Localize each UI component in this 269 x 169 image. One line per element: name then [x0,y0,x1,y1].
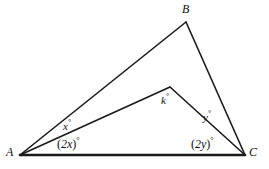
figure-canvas [0,0,269,169]
degree-symbol: ° [210,135,213,145]
angle-label-two-x: (2x)° [57,136,80,150]
vertex-label-c: C [249,146,257,158]
angle-two-x-value: 2x [61,137,72,151]
angle-label-x: x° [63,119,71,132]
degree-symbol: ° [166,92,169,101]
angle-label-y: y° [203,110,211,123]
vertex-label-b: B [182,3,189,15]
vertex-label-a: A [6,146,13,158]
angle-label-k: k° [161,93,169,106]
figure-background [0,0,269,169]
degree-symbol: ° [76,135,79,145]
degree-symbol: ° [68,118,71,127]
angle-label-two-y: (2y)° [191,136,214,150]
geometry-figure: A B C x° (2x)° k° y° (2y)° [0,0,269,169]
degree-symbol: ° [208,109,211,118]
angle-two-y-value: 2y [195,137,206,151]
